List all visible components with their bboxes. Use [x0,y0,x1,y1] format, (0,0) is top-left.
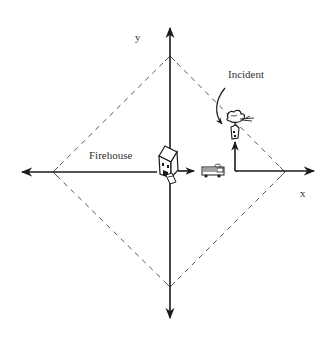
firehouse-label: Firehouse [89,150,132,161]
fire-truck-icon [202,164,224,178]
x-axis-label: x [300,188,306,199]
diagram-canvas: y x Incident Firehouse [0,0,332,341]
y-axis-label: y [135,32,141,43]
diagram-svg [0,0,332,341]
route-north-arrow [235,142,238,171]
house-icon [159,146,178,184]
incident-pointer-arrow [217,88,225,124]
incident-label: Incident [228,69,264,80]
burning-tree-house-icon [227,110,254,139]
